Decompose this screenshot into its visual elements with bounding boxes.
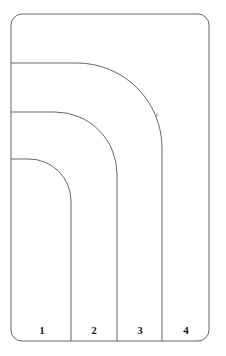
band-2-profile xyxy=(11,112,117,341)
band-label-1: 1 xyxy=(39,325,45,336)
figure-root: 1 2 3 4 xyxy=(0,0,226,356)
band-label-4: 4 xyxy=(183,325,189,336)
band-1-profile xyxy=(11,159,71,341)
nested-corners-diagram xyxy=(0,0,226,356)
band-3-profile xyxy=(11,63,162,341)
band-label-2: 2 xyxy=(91,325,97,336)
band-label-3: 3 xyxy=(137,325,143,336)
